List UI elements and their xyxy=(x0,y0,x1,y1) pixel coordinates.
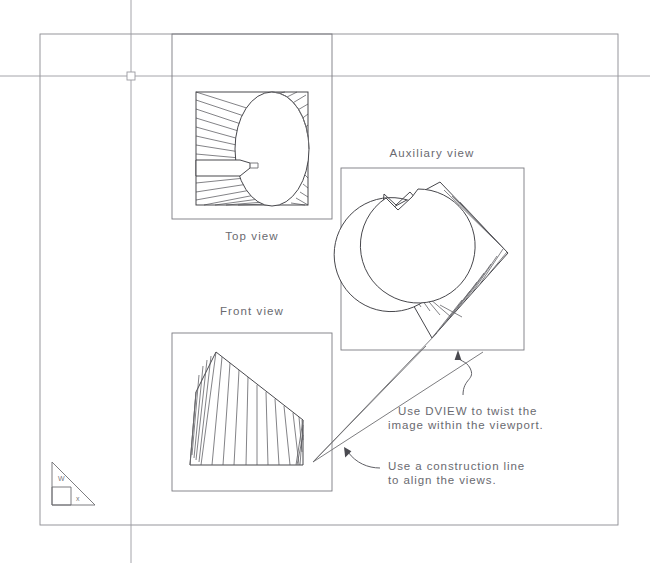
front-view-hatch xyxy=(192,352,303,465)
dview-note-line2: image within the viewport. xyxy=(388,419,544,431)
construction-leader-arrowhead xyxy=(344,447,351,458)
construction-note-line1: Use a construction line xyxy=(388,460,525,472)
ucs-icon-y-label: W xyxy=(58,475,65,482)
dview-note-line1: Use DVIEW to twist the xyxy=(398,405,537,417)
dview-leader-arrowhead xyxy=(455,350,462,360)
cad-drawing-canvas[interactable]: Top view Auxiliary view xyxy=(0,0,650,563)
dview-note-leader xyxy=(455,350,472,395)
crosshair-cursor[interactable] xyxy=(0,0,650,563)
top-view-geometry xyxy=(196,92,309,206)
ucs-icon[interactable]: W x xyxy=(52,462,95,505)
top-view-label: Top view xyxy=(225,230,279,242)
front-view-geometry xyxy=(190,352,303,465)
cad-drawing-svg: Top view Auxiliary view xyxy=(0,0,650,563)
dview-note: Use DVIEW to twist the image within the … xyxy=(388,405,544,431)
front-view-label: Front view xyxy=(220,305,284,317)
cursor-pickbox xyxy=(127,72,135,80)
auxiliary-view-label: Auxiliary view xyxy=(389,147,474,159)
construction-note-leader xyxy=(344,447,380,468)
construction-note-line2: to align the views. xyxy=(388,474,497,486)
auxiliary-view-geometry xyxy=(334,182,508,338)
construction-note: Use a construction line to align the vie… xyxy=(388,460,525,486)
ucs-icon-x-label: x xyxy=(76,495,80,502)
